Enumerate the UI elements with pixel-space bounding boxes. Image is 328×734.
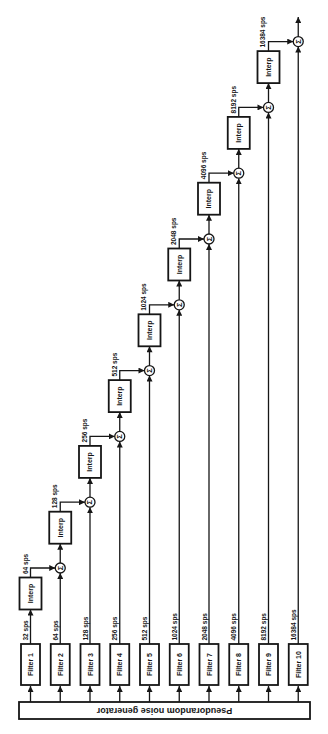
filter-rate-label: 512 sps bbox=[141, 616, 149, 640]
multirate-noise-synthesizer-diagram: Pseudorandom noise generatorFilter 132 s… bbox=[0, 0, 328, 734]
interp-output-rate-label: 16384 sps bbox=[260, 16, 268, 47]
sigma-symbol: Σ bbox=[115, 434, 124, 439]
noise-generator-label: Pseudorandom noise generator bbox=[96, 706, 232, 716]
sigma-symbol: Σ bbox=[145, 368, 154, 373]
interp-label: Interp bbox=[146, 321, 154, 340]
scanned-figure-page: Pseudorandom noise generatorFilter 132 s… bbox=[0, 0, 328, 734]
sigma-symbol: Σ bbox=[234, 170, 243, 175]
filter-label: Filter 7 bbox=[206, 653, 213, 676]
filter-rate-label: 4096 sps bbox=[230, 613, 238, 641]
filter-label: Filter 10 bbox=[295, 651, 302, 678]
interp-label: Interp bbox=[206, 189, 214, 208]
filter-label: Filter 3 bbox=[87, 653, 94, 676]
interp-output-rate-label: 128 sps bbox=[51, 484, 59, 508]
sigma-symbol: Σ bbox=[294, 39, 303, 44]
filter-label: Filter 1 bbox=[27, 653, 34, 676]
filter-rate-label: 1024 sps bbox=[171, 613, 179, 641]
interp-output-rate-label: 64 sps bbox=[22, 553, 30, 574]
paper-background bbox=[0, 0, 328, 734]
interp-output-rate-label: 2048 sps bbox=[170, 217, 178, 245]
filter-label: Filter 9 bbox=[265, 653, 272, 676]
sigma-symbol: Σ bbox=[175, 302, 184, 307]
sigma-symbol: Σ bbox=[56, 565, 65, 570]
sigma-symbol: Σ bbox=[86, 499, 95, 504]
interp-output-rate-label: 512 sps bbox=[111, 352, 119, 376]
interp-label: Interp bbox=[235, 123, 243, 142]
filter-rate-label: 32 sps bbox=[22, 620, 30, 641]
filter-rate-label: 8192 sps bbox=[260, 613, 268, 641]
interp-label: Interp bbox=[265, 57, 273, 76]
interp-output-rate-label: 256 sps bbox=[81, 418, 89, 442]
interp-output-rate-label: 1024 sps bbox=[141, 283, 149, 311]
interp-output-rate-label: 8192 sps bbox=[230, 86, 238, 114]
interp-label: Interp bbox=[116, 386, 124, 405]
filter-rate-label: 2048 sps bbox=[201, 613, 209, 641]
filter-label: Filter 5 bbox=[146, 653, 153, 676]
interp-label: Interp bbox=[87, 452, 95, 471]
filter-label: Filter 4 bbox=[116, 653, 123, 676]
filter-rate-label: 128 sps bbox=[82, 616, 90, 640]
filter-rate-label: 256 sps bbox=[111, 616, 119, 640]
filter-rate-label: 64 sps bbox=[52, 620, 60, 641]
filter-label: Filter 2 bbox=[57, 653, 64, 676]
filter-label: Filter 8 bbox=[235, 653, 242, 676]
filter-rate-label: 16384 sps bbox=[290, 609, 298, 640]
interp-label: Interp bbox=[176, 255, 184, 274]
sigma-symbol: Σ bbox=[264, 105, 273, 110]
sigma-symbol: Σ bbox=[205, 236, 214, 241]
filter-label: Filter 6 bbox=[176, 653, 183, 676]
interp-label: Interp bbox=[27, 584, 35, 603]
interp-label: Interp bbox=[57, 518, 65, 537]
interp-output-rate-label: 4096 sps bbox=[200, 151, 208, 179]
